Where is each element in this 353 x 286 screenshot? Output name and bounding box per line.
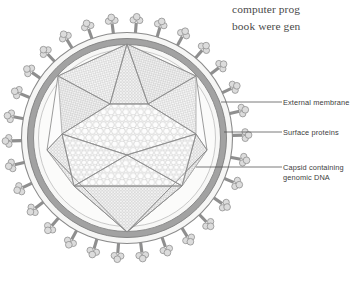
label-surface-proteins: Surface proteins (283, 128, 339, 138)
spike-head-lobe (203, 42, 210, 49)
spike-head-lobe (2, 138, 9, 145)
spike-head-lobe (89, 251, 96, 258)
spike-head-lobe (24, 66, 31, 73)
spike-head-lobe (40, 46, 47, 53)
spike-head-lobe (4, 112, 11, 119)
spike-head-lobe (114, 256, 121, 263)
spike-head-lobe (243, 157, 250, 164)
spike-head-lobe (108, 14, 115, 21)
spike-head-lobe (60, 31, 67, 38)
spike-head-lobe (11, 88, 18, 95)
spike-head-lobe (245, 132, 252, 139)
virus-diagram (0, 0, 353, 286)
spike-head-lobe (45, 227, 52, 234)
spike-head-lobe (164, 249, 171, 256)
spike-head-lobe (236, 181, 243, 188)
spike-head-lobe (5, 163, 12, 170)
spike-head-lobe (182, 28, 189, 35)
spike-head-lobe (187, 238, 194, 245)
spike-head-lobe (27, 209, 34, 216)
spike-head-lobe (158, 18, 165, 25)
spike-head-lobe (242, 106, 249, 113)
label-external-membrane: External membrane (283, 98, 350, 108)
spike-head-lobe (220, 61, 227, 68)
spike-head-lobe (139, 255, 146, 262)
spike-head-lobe (233, 82, 240, 89)
spike-head-lobe (65, 241, 72, 248)
spike-head-lobe (207, 223, 214, 230)
spike-head-lobe (133, 13, 140, 20)
spike-head-lobe (14, 187, 21, 194)
spike-head-lobe (83, 20, 90, 27)
label-capsid-containing-genomic-dna: Capsid containing genomic DNA (283, 163, 344, 182)
spike-head-lobe (224, 204, 231, 211)
figure-page: computer prog book were gen (0, 0, 353, 286)
